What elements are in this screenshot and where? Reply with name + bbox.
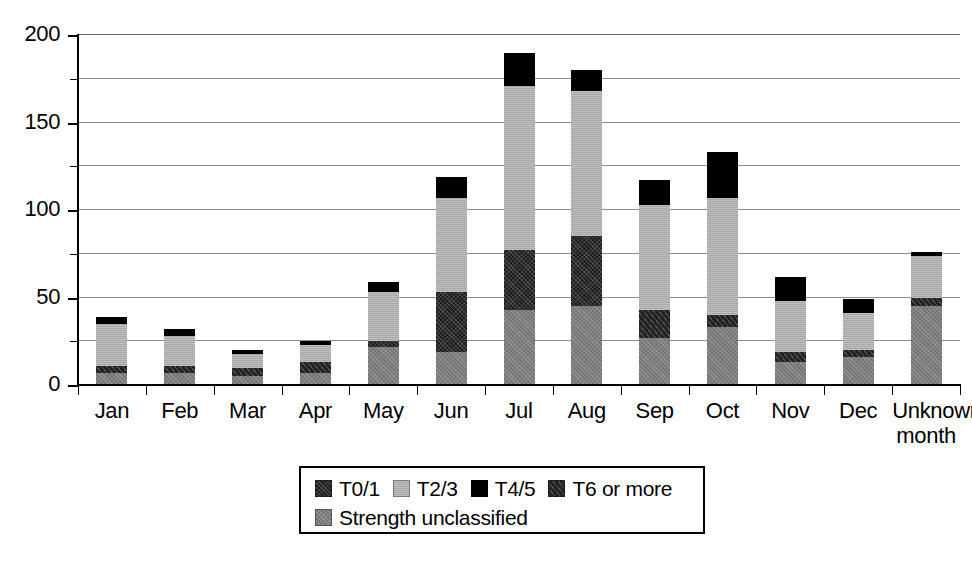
bar-segment (96, 324, 127, 366)
bar-segment (639, 310, 670, 338)
x-axis-tick (417, 386, 418, 395)
bar-segment (436, 292, 467, 352)
bar-segment (639, 338, 670, 385)
x-axis-tick (689, 386, 690, 395)
legend-swatch (393, 480, 410, 497)
bar-segment (96, 317, 127, 324)
bar-group (707, 152, 738, 385)
bar-segment (911, 306, 942, 385)
bar-segment (707, 152, 738, 198)
bar-segment (164, 336, 195, 366)
y-axis-tick (70, 254, 78, 255)
x-axis-label: Oct (689, 398, 757, 423)
y-axis-tick (70, 79, 78, 80)
legend-swatch (315, 480, 332, 497)
bar-segment (843, 313, 874, 350)
bar-segment (300, 345, 331, 363)
bar-segment (368, 341, 399, 346)
bar-segment (639, 180, 670, 205)
bar-segment (164, 366, 195, 373)
y-axis-tick (70, 166, 78, 167)
x-axis-label: Feb (146, 398, 214, 423)
x-axis-tick (146, 386, 147, 395)
x-axis-label: Sep (621, 398, 689, 423)
x-axis-label: Mar (214, 398, 282, 423)
bars-layer (78, 35, 960, 385)
x-axis-label: Jan (78, 398, 146, 423)
bar-group (571, 70, 602, 385)
legend-label: T2/3 (417, 478, 458, 499)
y-axis-tick (70, 341, 78, 342)
bar-segment (571, 91, 602, 236)
bar-segment (707, 198, 738, 315)
bar-segment (504, 310, 535, 385)
y-axis-tick (68, 298, 78, 300)
bar-segment (775, 352, 806, 363)
bar-segment (775, 362, 806, 385)
bar-segment (232, 354, 263, 368)
legend-row: Strength unclassified (315, 503, 693, 532)
bar-segment (164, 329, 195, 336)
legend: T0/1T2/3T4/5T6 or more Strength unclassi… (299, 466, 705, 534)
x-axis-label: Dec (824, 398, 892, 423)
x-axis-label: May (349, 398, 417, 423)
legend-swatch (315, 509, 332, 526)
x-axis-tick (824, 386, 825, 395)
bar-group (96, 317, 127, 385)
x-axis-tick (553, 386, 554, 395)
bar-segment (504, 250, 535, 310)
legend-item: Strength unclassified (315, 507, 528, 528)
bar-group (368, 282, 399, 385)
bar-segment (707, 327, 738, 385)
x-axis-label: Nov (756, 398, 824, 423)
bar-segment (911, 252, 942, 256)
y-axis-label: 50 (36, 286, 60, 308)
bar-group (164, 329, 195, 385)
bar-segment (571, 236, 602, 306)
x-axis-tick (214, 386, 215, 395)
bar-group (504, 53, 535, 386)
x-axis-label: Jun (417, 398, 485, 423)
y-axis-label: 200 (24, 23, 60, 45)
plot-area (78, 35, 960, 385)
y-axis-tick (68, 385, 78, 387)
bar-segment (300, 362, 331, 373)
x-axis-tick (78, 386, 79, 395)
bar-group (911, 252, 942, 385)
bar-group (775, 277, 806, 386)
legend-label: T6 or more (572, 478, 672, 499)
y-axis-label: 100 (24, 198, 60, 220)
bar-segment (436, 352, 467, 385)
bar-group (436, 177, 467, 385)
legend-label: Strength unclassified (339, 507, 528, 528)
bar-segment (504, 53, 535, 86)
bar-segment (775, 301, 806, 352)
x-axis-label: Apr (282, 398, 350, 423)
x-axis-tick (485, 386, 486, 395)
bar-segment (911, 256, 942, 298)
y-axis-tick (68, 210, 78, 212)
legend-label: T0/1 (339, 478, 380, 499)
bar-segment (707, 315, 738, 327)
bar-segment (843, 350, 874, 357)
bar-segment (639, 205, 670, 310)
x-axis-line (77, 384, 961, 386)
bar-segment (571, 70, 602, 91)
bar-segment (843, 299, 874, 313)
bar-segment (96, 366, 127, 373)
bar-segment (300, 341, 331, 345)
legend-item: T2/3 (393, 478, 458, 499)
bar-group (232, 350, 263, 385)
bar-segment (843, 357, 874, 385)
legend-label: T4/5 (495, 478, 536, 499)
x-axis-tick (756, 386, 757, 395)
bar-segment (232, 368, 263, 377)
bar-segment (911, 298, 942, 307)
stacked-bar-chart: 050100150200 JanFebMarAprMayJunJulAugSep… (0, 0, 972, 561)
bar-segment (368, 282, 399, 293)
bar-group (843, 299, 874, 385)
x-axis-tick (282, 386, 283, 395)
bar-group (300, 341, 331, 385)
bar-group (639, 180, 670, 385)
x-axis-label: Unknown month (892, 398, 960, 448)
